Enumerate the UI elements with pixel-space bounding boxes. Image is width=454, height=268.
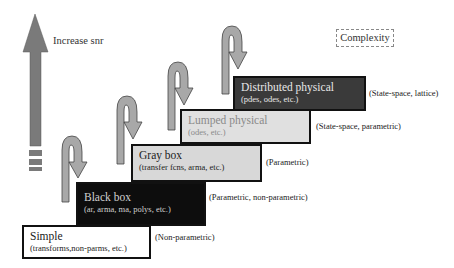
step-title: Distributed physical bbox=[241, 81, 359, 94]
step-annotation: (Parametric, non-parametric) bbox=[209, 192, 308, 202]
step-title: Black box bbox=[84, 191, 199, 204]
increase-snr-arrow-icon bbox=[23, 14, 48, 171]
step-simple: Simple (transforms,non-parms, etc.) bbox=[22, 225, 151, 259]
step-title: Gray box bbox=[139, 149, 255, 162]
step-lumped-physical: Lumped physical (odes, etc.) bbox=[180, 109, 311, 144]
step-annotation: (Non-parametric) bbox=[155, 232, 214, 242]
step-annotation: (State-space, parametric) bbox=[316, 121, 401, 131]
step-subtitle: (odes, etc.) bbox=[188, 127, 304, 138]
step-subtitle: (pdes, odes, etc.) bbox=[241, 94, 359, 105]
step-distributed-physical: Distributed physical (pdes, odes, etc.) bbox=[233, 76, 366, 111]
step-title: Lumped physical bbox=[188, 114, 304, 127]
step-annotation: (Parametric) bbox=[266, 157, 308, 167]
step-black-box: Black box (ar, arma, ma, polys, etc.) bbox=[76, 182, 206, 226]
step-annotation: (State-space, lattice) bbox=[369, 88, 438, 98]
step-gray-box: Gray box (transfer fcns, arma, etc.) bbox=[131, 144, 262, 182]
step-title: Simple bbox=[30, 230, 144, 243]
step-subtitle: (ar, arma, ma, polys, etc.) bbox=[84, 204, 199, 215]
complexity-legend: Complexity bbox=[336, 29, 394, 47]
step-subtitle: (transfer fcns, arma, etc.) bbox=[139, 162, 255, 173]
step-subtitle: (transforms,non-parms, etc.) bbox=[30, 243, 144, 254]
increase-snr-label: Increase snr bbox=[53, 35, 103, 46]
